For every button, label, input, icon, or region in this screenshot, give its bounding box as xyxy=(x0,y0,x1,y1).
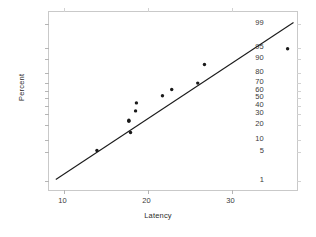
y-tick-label-1: 1 xyxy=(238,176,264,184)
x-tick-label-10: 10 xyxy=(50,197,76,205)
y-tick-right-50 xyxy=(297,98,301,99)
probability-plot: 99 95 90 80 70 60 50 40 30 20 10 5 1 10 … xyxy=(0,0,316,237)
y-tick-10 xyxy=(45,140,49,141)
y-tick-right-90 xyxy=(297,59,301,60)
y-tick-label-99: 99 xyxy=(238,19,264,27)
y-tick-50 xyxy=(45,98,49,99)
y-axis-title: Percent xyxy=(17,74,26,101)
y-tick-1 xyxy=(45,181,49,182)
y-tick-label-90: 90 xyxy=(238,54,264,62)
y-tick-70 xyxy=(45,83,49,84)
y-tick-right-40 xyxy=(297,106,301,107)
x-tick-label-30: 30 xyxy=(218,197,244,205)
x-tick-top-10 xyxy=(64,8,65,12)
y-tick-right-10 xyxy=(297,140,301,141)
x-tick-top-20 xyxy=(148,8,149,12)
y-tick-right-70 xyxy=(297,83,301,84)
y-tick-right-99 xyxy=(297,24,301,25)
y-tick-90 xyxy=(45,59,49,60)
y-tick-right-1 xyxy=(297,181,301,182)
y-tick-label-5: 5 xyxy=(238,147,264,155)
y-tick-right-80 xyxy=(297,73,301,74)
y-tick-80 xyxy=(45,73,49,74)
y-tick-label-95: 95 xyxy=(238,43,264,51)
y-tick-right-60 xyxy=(297,91,301,92)
x-tick-20 xyxy=(148,190,149,194)
y-tick-30 xyxy=(45,114,49,115)
y-tick-right-20 xyxy=(297,125,301,126)
y-tick-40 xyxy=(45,106,49,107)
y-tick-20 xyxy=(45,125,49,126)
x-tick-label-20: 20 xyxy=(134,197,160,205)
y-tick-label-30: 30 xyxy=(238,109,264,117)
y-tick-right-5 xyxy=(297,152,301,153)
y-tick-5 xyxy=(45,152,49,153)
y-tick-label-10: 10 xyxy=(238,135,264,143)
y-tick-99 xyxy=(45,24,49,25)
y-tick-right-30 xyxy=(297,114,301,115)
x-tick-10 xyxy=(64,190,65,194)
y-tick-right-95 xyxy=(297,48,301,49)
y-tick-60 xyxy=(45,91,49,92)
x-axis-title: Latency xyxy=(0,211,316,220)
x-tick-top-30 xyxy=(232,8,233,12)
y-tick-label-20: 20 xyxy=(238,120,264,128)
y-tick-95 xyxy=(45,48,49,49)
y-tick-label-80: 80 xyxy=(238,68,264,76)
x-tick-30 xyxy=(232,190,233,194)
